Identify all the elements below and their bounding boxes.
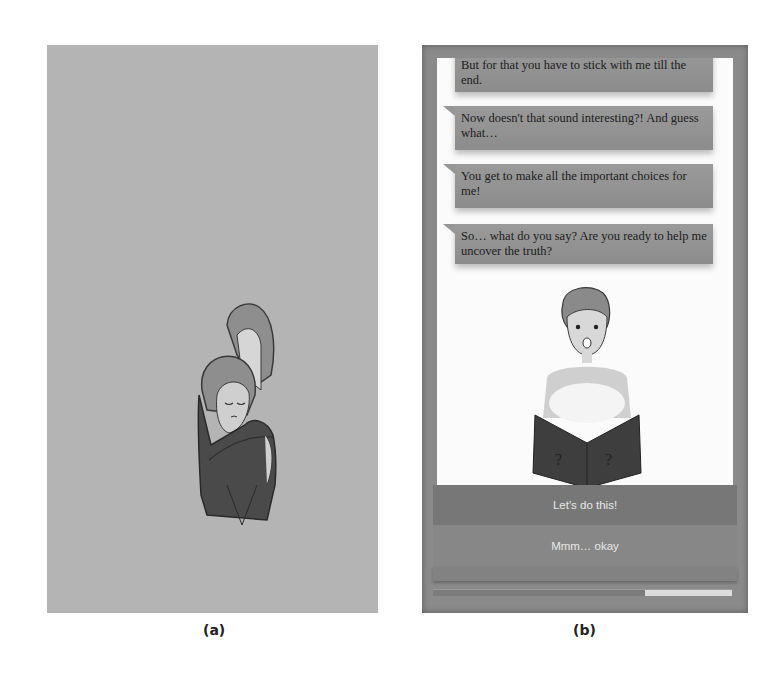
button-shadow-strip (433, 567, 737, 581)
progress-fill (645, 590, 732, 596)
chat-bubble: So… what do you say? Are you ready to he… (455, 224, 713, 264)
hugging-figures-illustration (187, 295, 287, 530)
story-progress-bar (433, 589, 732, 596)
chat-bubble: Now doesn't that sound interesting?! And… (455, 106, 713, 150)
chat-bubble: But for that you have to stick with me t… (455, 58, 713, 92)
chat-screen[interactable]: But for that you have to stick with me t… (437, 58, 733, 485)
svg-text:?: ? (555, 451, 562, 468)
svg-text:?: ? (605, 451, 612, 468)
screen-a (47, 45, 378, 613)
reading-character-illustration: ? ? (527, 283, 647, 485)
choice-lets-do-this-button[interactable]: Let's do this! (433, 485, 737, 525)
phone-frame: But for that you have to stick with me t… (422, 45, 748, 613)
caption-b: (b) (573, 622, 596, 638)
chat-bubble: You get to make all the important choice… (455, 164, 713, 208)
choice-mmm-okay-button[interactable]: Mmm… okay (433, 525, 737, 567)
caption-a: (a) (203, 622, 225, 638)
